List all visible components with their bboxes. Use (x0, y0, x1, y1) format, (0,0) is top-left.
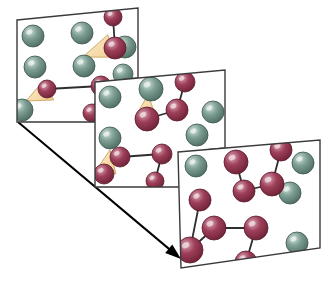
panel-3-monomer-atom-8 (189, 189, 211, 211)
panel-2-matrix-atom-4 (186, 124, 208, 146)
panel-2-monomer-atom-6 (166, 99, 188, 121)
panel-2-monomer-atom-8 (110, 147, 130, 167)
panel-3-monomer-atom-9 (202, 216, 226, 240)
panel-2-matrix-atom-1 (139, 77, 163, 101)
panel-2-monomer-atom-10 (152, 144, 172, 164)
panel-1-matrix-atom-3 (24, 56, 46, 78)
panel-1-matrix-atom-1 (71, 22, 93, 44)
panel-3-matrix-atom-0 (185, 155, 207, 177)
panel-2-matrix-atom-3 (99, 127, 121, 149)
panel-3[interactable] (177, 139, 320, 273)
panel-1-monomer-atom-8 (104, 37, 126, 59)
panel-3-matrix-atom-1 (292, 152, 314, 174)
reaction-sequence-diagram (0, 0, 335, 281)
panel-1-matrix-atom-4 (73, 55, 95, 77)
panel-1-matrix-atom-0 (22, 25, 44, 47)
panel-3-monomer-atom-11 (244, 216, 268, 240)
panel-2-monomer-atom-9 (94, 164, 114, 184)
panel-1-matrix-atom-6 (11, 99, 33, 121)
panel-3-monomer-atom-4 (224, 150, 248, 174)
panel-3-monomer-atom-12 (235, 251, 257, 273)
panel-2-matrix-atom-0 (99, 86, 121, 108)
diagram-stage (0, 0, 335, 281)
panel-2-matrix-atom-2 (202, 101, 224, 123)
panel-1-monomer-atom-9 (38, 80, 56, 98)
panel-3-monomer-atom-6 (260, 172, 284, 196)
panel-2-monomer-atom-7 (135, 107, 159, 131)
panel-3-monomer-atom-7 (233, 180, 255, 202)
